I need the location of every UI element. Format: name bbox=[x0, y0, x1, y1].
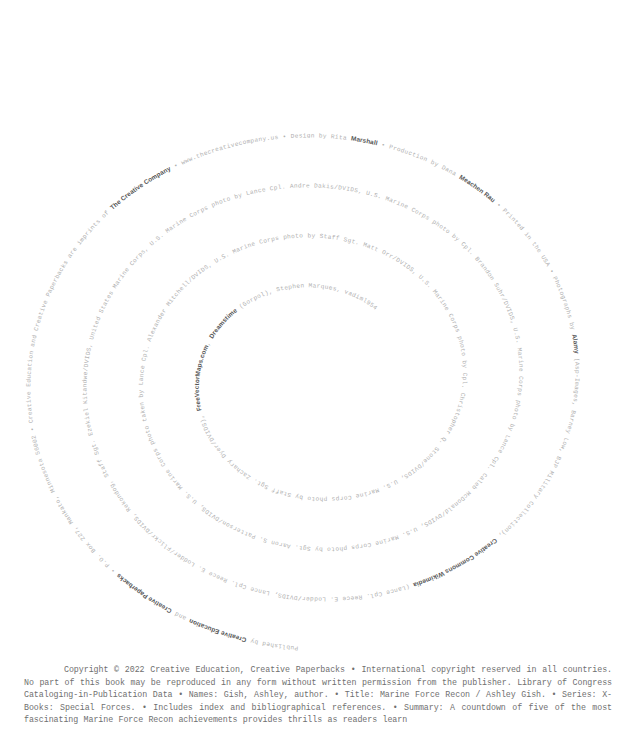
spiral-emphasis-run: Dreamstime bbox=[208, 306, 239, 339]
spiral-emphasis-run: Creative Paperbacks bbox=[115, 572, 173, 615]
spiral-credits-text: Published by Creative Education and Crea… bbox=[25, 132, 580, 651]
spiral-text-graphic: Published by Creative Education and Crea… bbox=[0, 0, 634, 660]
spiral-text-run: and bbox=[170, 608, 191, 623]
copyright-paragraph: Copyright © 2022 Creative Education, Cre… bbox=[0, 664, 634, 727]
spiral-emphasis-run: FreeVectorMaps.com bbox=[193, 343, 210, 411]
spiral-emphasis-run: The Creative Company bbox=[109, 164, 173, 210]
spiral-emphasis-run: Alamy bbox=[571, 333, 581, 354]
spiral-text-run: (Asp-Images, Barney Low, BJP Military Co… bbox=[494, 354, 581, 542]
copyright-page: Published by Creative Education and Crea… bbox=[0, 0, 634, 732]
spiral-emphasis-run: Creative Commons Wikimedia bbox=[412, 537, 499, 589]
spiral-text-run: • P.O. Box 227, Mankato, Minnesota 56002… bbox=[25, 206, 120, 577]
spiral-emphasis-run: Marshall bbox=[351, 134, 379, 146]
spiral-text-run: • Printed in the USA • Photographs by bbox=[492, 199, 577, 335]
spiral-text-run: • www.thecreativecompany.us • Design by … bbox=[169, 132, 351, 171]
colophon-block: Copyright © 2022 Creative Education, Cre… bbox=[0, 664, 634, 732]
spiral-emphasis-run: Meachen Rau bbox=[458, 173, 497, 203]
spiral-text-run: (Lance Cpl. Reece E. Lodder/DVIDS, Lance… bbox=[82, 182, 525, 602]
spiral-text-run: Published by bbox=[246, 636, 299, 651]
spiral-credits-block: Published by Creative Education and Crea… bbox=[0, 0, 634, 660]
spiral-emphasis-run: Creative Education bbox=[188, 618, 247, 644]
spiral-text-run: (Gorpol), Stephen Marques, vadiml954 bbox=[235, 282, 379, 312]
spiral-text-run: • Production by Dana bbox=[377, 140, 462, 179]
